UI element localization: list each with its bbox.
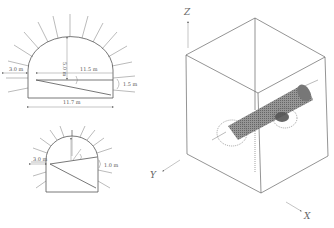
label-height: 5.0 m bbox=[62, 62, 68, 77]
axis-y-label: Y bbox=[150, 170, 157, 180]
label-overall-width: 11.7 m bbox=[63, 99, 81, 105]
axis-z-label: Z bbox=[183, 7, 191, 17]
label-right-offset: 1.0 m bbox=[104, 162, 119, 168]
axis-x-label: X bbox=[303, 211, 311, 221]
model-bounding-box bbox=[186, 18, 328, 193]
label-right-offset: 1.5 m bbox=[123, 81, 138, 87]
tunnel-outline bbox=[28, 37, 113, 98]
large-tunnel-section: 5.0 m 11.5 m 3.0 m 1.5 m 11.7 m bbox=[3, 14, 138, 107]
figure-canvas: 5.0 m 11.5 m 3.0 m 1.5 m 11.7 m bbox=[0, 0, 334, 228]
small-tunnel-section: 3.0 m 1.0 m bbox=[30, 126, 119, 192]
label-left-offset: 3.0 m bbox=[9, 66, 24, 72]
3d-model-view: Z Y X bbox=[150, 7, 328, 221]
label-inner-width: 11.5 m bbox=[80, 66, 98, 72]
label-left-offset: 3.0 m bbox=[33, 156, 48, 162]
